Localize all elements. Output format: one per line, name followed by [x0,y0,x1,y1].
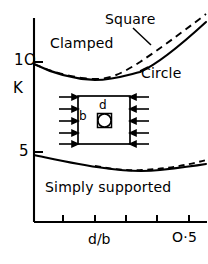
inset-arrow-right-4 [130,130,149,135]
y-axis-title: K [13,81,23,96]
inset-arrow-left-5 [59,141,78,146]
x-tick-label-05: O·5 [172,230,197,244]
annotation-clamped: Clamped [50,36,114,50]
inset-arrow-left-1 [59,94,78,99]
inset-left-load-arrows [59,94,78,146]
inset-arrow-right-2 [130,106,149,111]
inset-arrow-left-3 [59,118,78,123]
inset-label-d: d [99,99,107,111]
inset-arrow-right-5 [130,141,149,146]
inset-arrow-right-1 [130,94,149,99]
inset-arrow-left-2 [59,106,78,111]
inset-arrow-left-4 [59,130,78,135]
y-tick-label-10: 1O [14,53,36,68]
figure-container: 1O 5 K d/b O·5 Clamped Square Circle Sim… [0,0,208,264]
annotation-circle: Circle [141,66,182,80]
annotation-square: Square [105,12,156,26]
leader-square [133,28,151,45]
x-axis-title: d/b [88,232,111,246]
inset-right-load-arrows [130,94,149,146]
inset-arrow-right-3 [130,118,149,123]
inset-hole-circle [98,114,111,127]
y-tick-label-5: 5 [19,144,29,159]
y-axis-ticks [34,62,43,152]
curve-simply-circle-solid [34,155,206,171]
annotation-simply-supported: Simply supported [45,180,171,194]
inset-label-b: b [79,110,87,122]
